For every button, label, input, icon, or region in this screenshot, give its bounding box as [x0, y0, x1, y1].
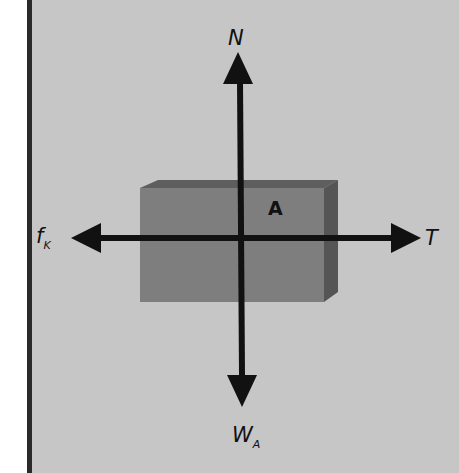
friction-force-label: fK [36, 226, 51, 247]
weight-force-label: WA [232, 425, 260, 446]
tension-force-symbol: T [425, 226, 438, 250]
tension-arrow-icon [391, 223, 421, 253]
block-label: A [268, 199, 283, 218]
weight-force-symbol: W [232, 423, 253, 447]
weight-arrow-icon [227, 375, 257, 407]
normal-arrow-icon [223, 52, 253, 84]
block-front-face [140, 188, 324, 302]
weight-force-subscript: A [253, 438, 261, 451]
free-body-diagram [0, 0, 459, 473]
normal-force-symbol: N [228, 26, 244, 50]
tension-force-label: T [425, 228, 438, 249]
vertical-force-line [240, 80, 242, 375]
normal-force-label: N [228, 28, 244, 49]
friction-arrow-icon [71, 223, 101, 253]
friction-force-subscript: K [43, 239, 50, 252]
